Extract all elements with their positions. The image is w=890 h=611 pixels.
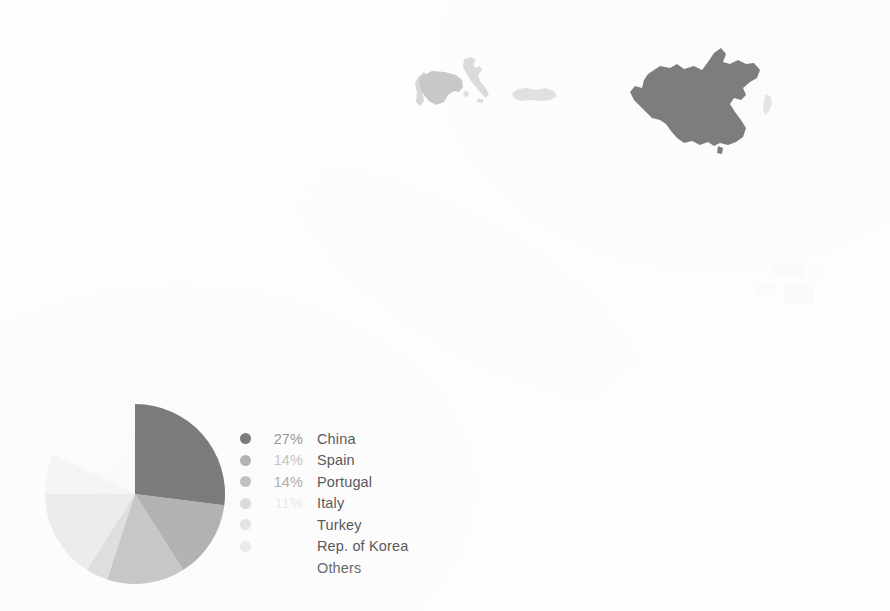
map-region-turkey [510, 85, 558, 104]
legend-row-turkey: Turkey [240, 514, 540, 536]
legend-row-rep-of-korea: Rep. of Korea [240, 536, 540, 558]
legend-swatch-spain [240, 455, 251, 466]
pie-legend: 27% China 14% Spain 14% Portugal 11% Ita… [240, 428, 540, 579]
legend-swatch-rep-of-korea [240, 541, 251, 552]
legend-row-portugal: 14% Portugal [240, 471, 540, 493]
legend-swatch-china [240, 433, 251, 444]
world-map [0, 0, 890, 340]
legend-percent-italy: 11% [259, 495, 303, 511]
pie-slice-china [135, 404, 225, 505]
faint-artifact-icon [744, 258, 842, 320]
legend-percent-china: 27% [259, 431, 303, 447]
map-region-rep-of-korea [762, 94, 774, 116]
legend-label-italy: Italy [317, 495, 344, 511]
legend-label-china: China [317, 431, 356, 447]
map-region-italy [458, 57, 492, 104]
pie-chart [44, 403, 226, 585]
legend-label-others: Others [317, 560, 361, 576]
map-region-china [622, 42, 770, 158]
legend-label-spain: Spain [317, 452, 355, 468]
legend-swatch-italy [240, 498, 251, 509]
scan-page: 27% China 14% Spain 14% Portugal 11% Ita… [0, 0, 890, 611]
legend-row-others: Others [240, 557, 540, 579]
legend-label-portugal: Portugal [317, 474, 372, 490]
pie-chart-block: 27% China 14% Spain 14% Portugal 11% Ita… [0, 380, 890, 611]
legend-row-spain: 14% Spain [240, 450, 540, 472]
legend-percent-spain: 14% [259, 452, 303, 468]
legend-label-turkey: Turkey [317, 517, 362, 533]
legend-percent-portugal: 14% [259, 474, 303, 490]
legend-row-italy: 11% Italy [240, 493, 540, 515]
legend-swatch-turkey [240, 519, 251, 530]
legend-swatch-others [240, 562, 251, 573]
legend-label-rep-of-korea: Rep. of Korea [317, 538, 408, 554]
legend-row-china: 27% China [240, 428, 540, 450]
legend-swatch-portugal [240, 476, 251, 487]
